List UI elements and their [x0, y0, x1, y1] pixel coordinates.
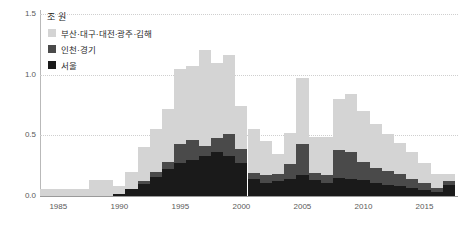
- bar-segment: [443, 185, 455, 196]
- bar-segment: [284, 164, 296, 179]
- bar-column: [40, 189, 52, 196]
- bar-column: [89, 180, 101, 196]
- bar-segment: [223, 134, 235, 156]
- bar-segment: [174, 163, 186, 196]
- bar-column: [357, 111, 369, 196]
- bar-segment: [113, 186, 125, 193]
- bar-segment: [309, 173, 321, 180]
- bar-segment: [406, 188, 418, 196]
- bar-segment: [394, 143, 406, 175]
- bar-column: [248, 129, 260, 196]
- legend-item: 부산·대구·대전·광주·김해: [48, 27, 152, 39]
- x-axis-tick-label: 1995: [171, 202, 189, 211]
- bar-column: [150, 129, 162, 196]
- bar-segment: [431, 174, 443, 187]
- bar-segment: [418, 163, 430, 182]
- bar-segment: [138, 147, 150, 181]
- bar-segment: [174, 69, 186, 144]
- y-axis-tick-label: 1.5: [8, 9, 36, 18]
- bar-column: [272, 154, 284, 196]
- y-axis-tick-label: 1.0: [8, 70, 36, 79]
- bar-segment: [357, 111, 369, 162]
- bar-segment: [186, 140, 198, 159]
- bar-column: [382, 134, 394, 196]
- bar-column: [223, 55, 235, 196]
- bar-column: [443, 174, 455, 196]
- bar-column: [406, 152, 418, 196]
- bar-segment: [162, 162, 174, 169]
- legend-label: 인천·경기: [61, 43, 96, 55]
- bar-segment: [150, 177, 162, 196]
- bar-column: [284, 133, 296, 196]
- bar-segment: [418, 190, 430, 196]
- bar-segment: [52, 189, 64, 196]
- bar-segment: [382, 171, 394, 186]
- bar-segment: [199, 50, 211, 146]
- bar-segment: [272, 181, 284, 196]
- bar-segment: [394, 174, 406, 186]
- y-axis-tick-label: 0.5: [8, 130, 36, 139]
- x-axis-tick-label: 2015: [416, 202, 434, 211]
- bar-column: [64, 189, 76, 196]
- bar-segment: [138, 184, 150, 196]
- bar-segment: [382, 134, 394, 170]
- bar-column: [211, 63, 223, 196]
- bar-column: [345, 94, 357, 196]
- bar-segment: [370, 183, 382, 196]
- bar-segment: [248, 129, 260, 173]
- chart-container: 조 원 0.00.51.01.5 19851990199520002005201…: [0, 0, 464, 234]
- bar-column: [125, 172, 137, 196]
- y-axis-tick-label: 0.0: [8, 191, 36, 200]
- bar-segment: [333, 99, 345, 150]
- bar-segment: [309, 180, 321, 196]
- bar-segment: [321, 175, 333, 182]
- bar-column: [138, 147, 150, 196]
- bar-segment: [211, 152, 223, 196]
- bar-column: [77, 189, 89, 196]
- bar-column: [296, 78, 308, 196]
- bar-segment: [333, 150, 345, 178]
- bar-segment: [443, 174, 455, 181]
- bar-column: [162, 109, 174, 196]
- bar-segment: [382, 185, 394, 196]
- bar-column: [321, 137, 333, 196]
- bar-segment: [309, 137, 321, 173]
- x-axis-line: [40, 196, 458, 197]
- bar-segment: [406, 152, 418, 179]
- bar-segment: [40, 189, 52, 196]
- bar-column: [52, 189, 64, 196]
- bar-segment: [345, 179, 357, 196]
- bar-column: [370, 124, 382, 196]
- legend-swatch: [48, 45, 56, 53]
- legend-swatch: [48, 29, 56, 37]
- bar-segment: [357, 180, 369, 196]
- bar-segment: [370, 168, 382, 183]
- bar-column: [260, 141, 272, 196]
- bar-segment: [345, 152, 357, 179]
- legend-item: 인천·경기: [48, 43, 152, 55]
- x-axis-tick-label: 2010: [355, 202, 373, 211]
- bar-column: [418, 163, 430, 196]
- bar-segment: [260, 175, 272, 182]
- bar-segment: [186, 66, 198, 140]
- bar-segment: [272, 174, 284, 181]
- bar-segment: [186, 160, 198, 196]
- bar-segment: [321, 183, 333, 196]
- bar-segment: [333, 178, 345, 196]
- bar-segment: [284, 179, 296, 196]
- bar-segment: [162, 169, 174, 196]
- x-axis-tick-label: 2000: [232, 202, 250, 211]
- bar-segment: [113, 194, 125, 196]
- bar-column: [101, 180, 113, 196]
- bar-segment: [260, 141, 272, 175]
- x-axis-tick-label: 2005: [294, 202, 312, 211]
- bar-segment: [235, 106, 247, 148]
- legend-item: 서울: [48, 59, 152, 71]
- bar-column: [309, 137, 321, 196]
- bar-segment: [394, 186, 406, 196]
- x-axis-tick-label: 1985: [49, 202, 67, 211]
- bar-segment: [272, 154, 284, 175]
- bar-column: [186, 66, 198, 196]
- bar-segment: [370, 124, 382, 168]
- bar-segment: [321, 137, 333, 176]
